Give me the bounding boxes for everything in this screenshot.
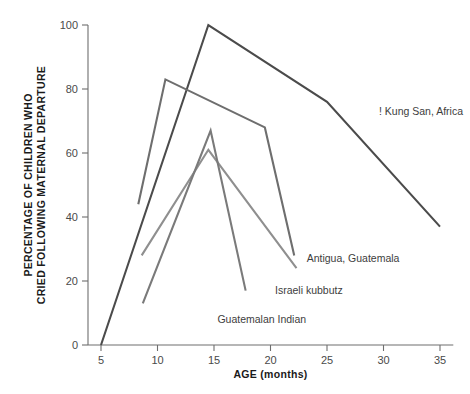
- x-tick-label-10: 10: [151, 354, 163, 366]
- x-tick-label-30: 30: [377, 354, 389, 366]
- series-label-1: Antigua, Guatemala: [307, 252, 400, 264]
- y-tick-label-60: 60: [66, 147, 78, 159]
- series-label-0: ! Kung San, Africa: [379, 105, 463, 117]
- y-axis-title-line1: PERCENTAGE OF CHILDREN WHO: [22, 93, 34, 276]
- x-tick-label-5: 5: [98, 354, 104, 366]
- series-line-3: [143, 131, 246, 304]
- y-axis-title-line2: CRIED FOLLOWING MATERNAL DEPARTURE: [35, 66, 47, 304]
- y-tick-label-40: 40: [66, 211, 78, 223]
- y-tick-label-0: 0: [72, 339, 78, 351]
- series-lines: [101, 25, 440, 345]
- series-label-2: Israeli kubbutz: [275, 284, 343, 296]
- x-tick-label-15: 15: [208, 354, 220, 366]
- series-line-0: [101, 25, 440, 345]
- x-tick-label-20: 20: [264, 354, 276, 366]
- x-axis-title: AGE (months): [233, 368, 307, 380]
- series-labels: ! Kung San, AfricaAntigua, GuatemalaIsra…: [217, 105, 463, 325]
- y-tick-label-100: 100: [60, 19, 78, 31]
- y-tick-label-80: 80: [66, 83, 78, 95]
- chart-figure: 020406080100 5101520253035 ! Kung San, A…: [0, 0, 470, 394]
- x-tick-label-25: 25: [321, 354, 333, 366]
- series-label-3: Guatemalan Indian: [217, 313, 306, 325]
- x-axis: 5101520253035: [88, 345, 453, 366]
- y-tick-label-20: 20: [66, 275, 78, 287]
- line-chart-svg: 020406080100 5101520253035 ! Kung San, A…: [0, 0, 470, 394]
- y-axis: 020406080100: [60, 19, 88, 351]
- x-tick-label-35: 35: [434, 354, 446, 366]
